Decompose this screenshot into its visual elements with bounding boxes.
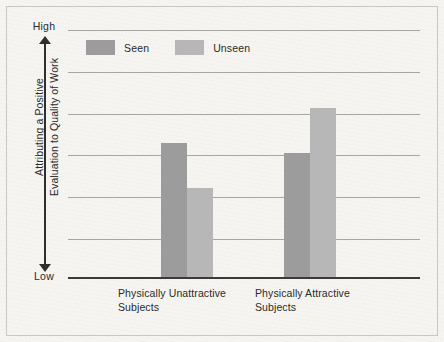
group-label-line-2: Subjects — [255, 301, 385, 315]
gridline — [68, 197, 420, 198]
x-axis-group-label-unattractive: Physically Unattractive Subjects — [118, 287, 248, 314]
bar-chart-figure: High Low Attributing a Positive Evaluati… — [0, 0, 444, 342]
x-axis-group-label-attractive: Physically Attractive Subjects — [255, 287, 385, 314]
y-axis-title-line-2: Evaluation to Quality of Work — [47, 25, 62, 230]
figure-border-top — [6, 6, 438, 7]
group-label-line-2: Subjects — [118, 301, 248, 315]
x-axis-baseline — [68, 277, 420, 279]
y-axis-title: Attributing a Positive Evaluation to Qua… — [32, 25, 62, 230]
bar-attractive-seen — [284, 153, 310, 279]
figure-border-right — [437, 6, 438, 336]
gridline — [68, 30, 420, 31]
plot-area — [68, 28, 420, 279]
figure-border-left — [6, 6, 7, 336]
legend-swatch-unseen — [175, 40, 204, 55]
legend-label-unseen: Unseen — [213, 42, 250, 54]
legend-label-seen: Seen — [124, 42, 149, 54]
gridline — [68, 114, 420, 115]
figure-border-bottom — [6, 335, 438, 336]
bar-unattractive-seen — [161, 143, 187, 279]
chart-legend: Seen Unseen — [86, 40, 250, 55]
legend-item-seen: Seen — [86, 40, 149, 55]
legend-item-unseen: Unseen — [175, 40, 250, 55]
gridline — [68, 155, 420, 156]
bar-attractive-unseen — [310, 108, 336, 280]
group-label-line-1: Physically Unattractive — [118, 287, 248, 301]
group-label-line-1: Physically Attractive — [255, 287, 385, 301]
legend-swatch-seen — [86, 40, 115, 55]
gridline — [68, 239, 420, 240]
bar-unattractive-unseen — [187, 188, 213, 279]
gridline — [68, 72, 420, 73]
y-axis-title-line-1: Attributing a Positive — [32, 25, 47, 230]
